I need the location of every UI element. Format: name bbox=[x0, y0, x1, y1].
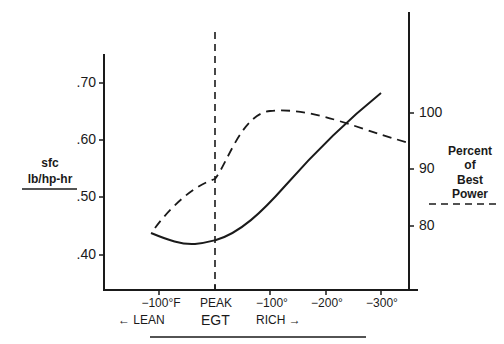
right-tick-label: 90 bbox=[419, 160, 435, 176]
right-tick-label: 100 bbox=[419, 104, 442, 120]
right-axis-title-line2: of bbox=[440, 158, 500, 172]
right-axis-title-line4: Power bbox=[440, 187, 500, 201]
x-tick-label: PEAK bbox=[186, 296, 246, 310]
power-curve bbox=[155, 110, 409, 228]
lean-direction-label: ← LEAN bbox=[118, 313, 165, 327]
x-axis-title-egt: EGT bbox=[201, 312, 230, 328]
left-tick-label: .60 bbox=[56, 131, 96, 147]
right-axis-title-line1: Percent bbox=[440, 144, 500, 158]
left-tick-label: .50 bbox=[56, 188, 96, 204]
sfc-curve bbox=[151, 93, 381, 244]
left-tick-label: .40 bbox=[56, 246, 96, 262]
rich-direction-label: RICH → bbox=[256, 313, 301, 327]
left-axis-title-units: lb/hp-hr bbox=[18, 172, 82, 186]
left-axis-title-sfc: sfc bbox=[30, 156, 70, 170]
x-tick-label: −300° bbox=[352, 296, 412, 310]
left-tick-label: .70 bbox=[56, 74, 96, 90]
right-axis-title-line3: Best bbox=[440, 173, 500, 187]
right-tick-label: 80 bbox=[419, 217, 435, 233]
x-tick-label: −100°F bbox=[131, 296, 191, 310]
x-tick-label: −200° bbox=[297, 296, 357, 310]
x-tick-label: −100° bbox=[242, 296, 302, 310]
